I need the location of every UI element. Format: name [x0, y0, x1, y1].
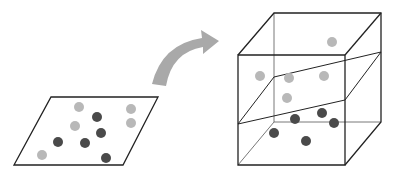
light-data-point [126, 104, 136, 114]
feature-space-cube [238, 13, 381, 165]
dark-data-point [101, 153, 111, 163]
dark-data-point [92, 112, 102, 122]
light-data-point [284, 73, 294, 83]
separating-hyperplane [238, 52, 381, 124]
input-space-plane [14, 97, 158, 165]
dark-data-point [290, 114, 300, 124]
light-data-point [70, 121, 80, 131]
dark-data-point [301, 136, 311, 146]
mapping-arrow-icon [152, 30, 219, 86]
light-data-point [37, 150, 47, 160]
input-plane-outline [14, 97, 158, 165]
dark-data-point [96, 128, 106, 138]
dark-data-point [53, 137, 63, 147]
dark-data-point [317, 108, 327, 118]
light-data-point [327, 37, 337, 47]
light-data-point [319, 71, 329, 81]
dark-data-point [329, 118, 339, 128]
light-data-point [255, 71, 265, 81]
cube-hidden-edge [238, 122, 274, 165]
cube-edge [345, 13, 381, 55]
cube-front-face [238, 55, 345, 165]
curved-arrow-shape [152, 30, 219, 86]
light-data-point [74, 102, 84, 112]
dark-data-point [80, 138, 90, 148]
dark-data-point [269, 128, 279, 138]
light-data-point [126, 118, 136, 128]
light-data-point [282, 93, 292, 103]
kernel-mapping-diagram [0, 0, 395, 174]
